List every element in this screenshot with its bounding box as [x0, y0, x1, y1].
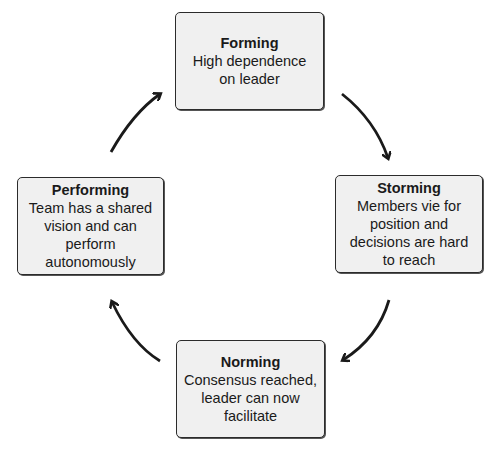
arrow-performing-to-forming: [111, 94, 160, 152]
stage-description-storming: Members vie for position and decisions a…: [342, 197, 476, 269]
stage-title-forming: Forming: [221, 34, 279, 52]
stage-description-forming: High dependence on leader: [186, 52, 314, 88]
stage-title-norming: Norming: [221, 353, 281, 371]
stage-box-performing: Performing Team has a shared vision and …: [17, 177, 164, 275]
arrow-forming-to-storming: [342, 94, 388, 158]
stage-title-performing: Performing: [52, 181, 129, 199]
arrow-storming-to-norming: [343, 300, 389, 360]
stage-description-performing: Team has a shared vision and can perform…: [29, 199, 153, 271]
stage-description-norming: Consensus reached, leader can now facili…: [184, 371, 318, 425]
stage-box-norming: Norming Consensus reached, leader can no…: [176, 340, 325, 438]
stage-box-forming: Forming High dependence on leader: [175, 12, 324, 110]
stage-box-storming: Storming Members vie for position and de…: [335, 175, 483, 273]
arrow-norming-to-performing: [112, 302, 160, 361]
stage-title-storming: Storming: [377, 179, 441, 197]
